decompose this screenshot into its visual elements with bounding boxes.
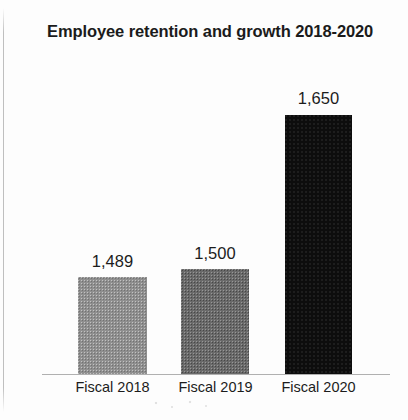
category-label-fiscal-2019: Fiscal 2019 [164, 379, 267, 395]
bar-fill-fiscal-2019 [181, 269, 249, 374]
bar-fiscal-2019[interactable]: 1,500 [181, 269, 249, 374]
category-axis-line [42, 374, 390, 375]
bar-value-label-fiscal-2018: 1,489 [92, 252, 133, 271]
bar-fiscal-2018[interactable]: 1,489 [78, 277, 147, 374]
bar-fiscal-2020[interactable]: 1,650 [285, 115, 352, 374]
plot-area: 1,489 1,500 1,650 Fiscal 2018 Fiscal 201… [0, 0, 408, 420]
scan-artifact-speckle [150, 398, 220, 412]
category-label-fiscal-2020: Fiscal 2020 [267, 379, 370, 395]
bar-value-label-fiscal-2019: 1,500 [194, 244, 235, 263]
bar-chart-figure: Employee retention and growth 2018-2020 … [0, 0, 408, 420]
bar-fill-fiscal-2020 [285, 115, 352, 374]
category-label-fiscal-2018: Fiscal 2018 [61, 379, 164, 395]
bar-fill-fiscal-2018 [78, 277, 147, 374]
bar-value-label-fiscal-2020: 1,650 [298, 89, 339, 108]
